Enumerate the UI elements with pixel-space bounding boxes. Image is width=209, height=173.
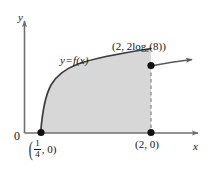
point-label-two-log-main: (2, 2log	[112, 40, 146, 52]
shaded-region	[41, 49, 151, 134]
function-label-equals: =	[65, 54, 73, 66]
quarter-close-text: , 0)	[42, 144, 57, 155]
point-label-two-log-tail: (8))	[149, 40, 166, 52]
function-label-fx: f(x)	[73, 54, 88, 66]
point-quarter-zero	[37, 129, 44, 136]
fraction-numerator: 1	[34, 139, 41, 148]
point-two-zero	[147, 129, 154, 136]
fraction-one-quarter: 1 4	[34, 139, 41, 160]
quarter-open-paren: (	[29, 138, 33, 160]
y-axis-label: y	[18, 12, 23, 23]
function-label: y=f(x)	[60, 55, 88, 66]
origin-label: 0	[14, 130, 20, 142]
point-label-quarter-zero: ( 1 4 , 0)	[27, 138, 57, 160]
point-label-two-log: (2, 2loge(8))	[112, 41, 166, 54]
point-two-log	[147, 62, 154, 69]
point-label-two-zero: (2, 0)	[135, 139, 159, 150]
x-axis-label: x	[193, 141, 198, 152]
figure-container: y x 0 y=f(x) (2, 2loge(8)) (2, 0) ( 1 4 …	[0, 0, 209, 173]
fraction-denominator: 4	[34, 150, 41, 159]
function-curve-tail	[151, 60, 192, 67]
